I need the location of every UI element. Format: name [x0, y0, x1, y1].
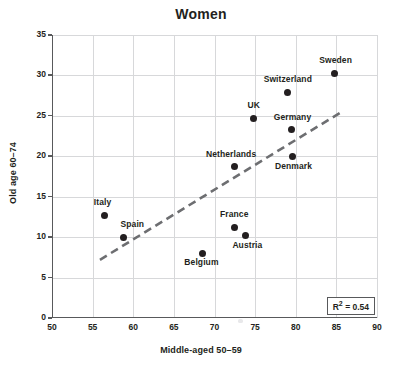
data-point-label: Italy [94, 197, 112, 207]
data-point-label: Sweden [319, 55, 352, 65]
x-tick-label: 55 [73, 322, 113, 332]
plot-area: ItalySpainBelgiumFranceAustriaNetherland… [52, 35, 377, 318]
x-tick-label: 75 [235, 322, 275, 332]
y-tick-label: 30 [18, 69, 46, 79]
data-point-label: France [220, 209, 248, 219]
data-point-marker[interactable] [231, 163, 238, 170]
gridline-vertical [377, 35, 378, 318]
data-point-label: Switzerland [264, 74, 312, 84]
y-tick-label: 5 [18, 272, 46, 282]
data-point-marker[interactable] [120, 234, 127, 241]
x-tick-label: 70 [195, 322, 235, 332]
y-tick-label: 10 [18, 231, 46, 241]
y-tick-label: 20 [18, 150, 46, 160]
y-axis-title: Old age 60–74 [8, 113, 18, 233]
y-tick-label: 15 [18, 191, 46, 201]
scan-artifact-speck [238, 319, 243, 323]
r2-value: = 0.54 [343, 302, 369, 312]
x-tick-label: 60 [113, 322, 153, 332]
x-tick-label: 85 [316, 322, 356, 332]
data-point-marker[interactable] [289, 153, 296, 160]
x-tick-label: 50 [32, 322, 72, 332]
data-point-label: UK [248, 100, 260, 110]
data-point-label: Austria [232, 240, 262, 250]
r-squared-annotation: R2 = 0.54 [327, 297, 375, 315]
x-tick-label: 90 [357, 322, 397, 332]
y-tick-label: 25 [18, 110, 46, 120]
data-point-marker[interactable] [242, 232, 249, 239]
data-point-marker[interactable] [331, 70, 338, 77]
data-point-marker[interactable] [231, 224, 238, 231]
data-point-label: Netherlands [206, 149, 256, 159]
data-point-label: Germany [274, 112, 312, 122]
data-point-marker[interactable] [250, 115, 257, 122]
y-tick-label: 0 [18, 312, 46, 322]
trendline [52, 35, 377, 318]
y-tick-label: 35 [18, 29, 46, 39]
scatter-chart-figure: Women Old age 60–74 Middle-aged 50–59 50… [0, 0, 402, 368]
x-tick-label: 80 [276, 322, 316, 332]
x-axis-title: Middle-aged 50–59 [0, 345, 402, 355]
chart-title: Women [0, 6, 402, 22]
data-point-label: Belgium [184, 257, 218, 267]
data-point-marker[interactable] [284, 89, 291, 96]
data-point-label: Denmark [275, 161, 312, 171]
data-point-marker[interactable] [199, 250, 206, 257]
x-tick-label: 65 [154, 322, 194, 332]
data-point-label: Spain [121, 219, 145, 229]
